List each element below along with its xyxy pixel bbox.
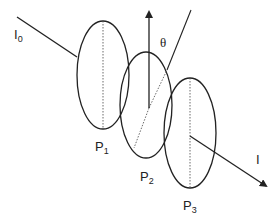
p2-axis-dotted-upper — [149, 70, 167, 108]
p3-label: P3 — [183, 199, 197, 215]
rotated-axis-line — [167, 10, 191, 70]
polarizer-p1 — [77, 21, 129, 129]
theta-label: θ — [160, 36, 166, 49]
polarizer-p3 — [164, 78, 216, 188]
p2-label: P2 — [140, 170, 154, 186]
p2-axis-dotted — [134, 108, 149, 148]
polarizer-diagram: I0 θ P1 P2 P3 I — [0, 0, 278, 217]
p1-label: P1 — [95, 140, 109, 156]
incident-intensity-label: I0 — [14, 28, 23, 44]
output-intensity-label: I — [256, 153, 260, 166]
output-beam-arrow — [190, 136, 266, 186]
diagram-canvas — [0, 0, 278, 217]
incident-beam-line — [17, 17, 77, 57]
